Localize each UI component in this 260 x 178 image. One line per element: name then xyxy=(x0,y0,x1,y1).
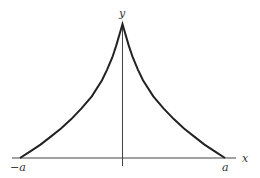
x-axis-label: x xyxy=(242,152,249,165)
chart-plot: y x −a a xyxy=(0,0,260,178)
y-axis-label: y xyxy=(118,7,126,20)
tick-label-left: −a xyxy=(10,161,26,174)
tick-label-right: a xyxy=(222,161,229,174)
